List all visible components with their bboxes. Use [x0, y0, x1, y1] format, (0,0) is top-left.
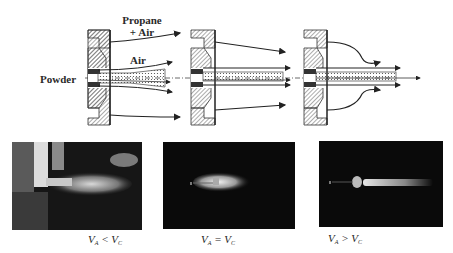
caption-va-greater-vc: VA > VC: [328, 232, 362, 245]
photo-va-equal-vc: [163, 142, 295, 229]
photo-va-greater-vc: [319, 141, 443, 227]
caption-va-less-vc: VA < VC: [88, 233, 122, 246]
photo-va-less-vc: [12, 142, 142, 230]
nozzle-flow-diagram: [0, 0, 453, 135]
caption-va-equal-vc: VA = VC: [201, 233, 235, 246]
